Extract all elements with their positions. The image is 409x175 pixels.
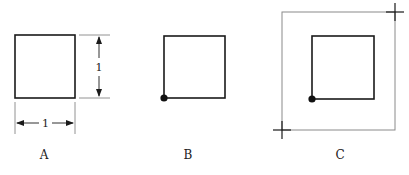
diagram-canvas: 1 1 A B C: [0, 0, 409, 175]
origin-point-icon: [308, 95, 315, 102]
crosshair-bottom-left-icon: [273, 121, 291, 139]
figure-label-a: A: [39, 148, 49, 162]
height-label: 1: [96, 61, 103, 74]
unit-square-a: [15, 35, 75, 98]
figure-a: 1 1 A: [15, 35, 110, 162]
bounding-frame: [282, 12, 395, 130]
origin-point-icon: [160, 94, 167, 101]
figure-label-c: C: [335, 148, 344, 162]
crosshair-top-right-icon: [386, 3, 404, 21]
figure-label-b: B: [184, 148, 193, 162]
figure-b: B: [160, 36, 225, 162]
unit-square-b: [164, 36, 225, 98]
figure-c: C: [273, 3, 404, 162]
unit-square-c: [312, 36, 374, 99]
width-label: 1: [42, 117, 49, 130]
